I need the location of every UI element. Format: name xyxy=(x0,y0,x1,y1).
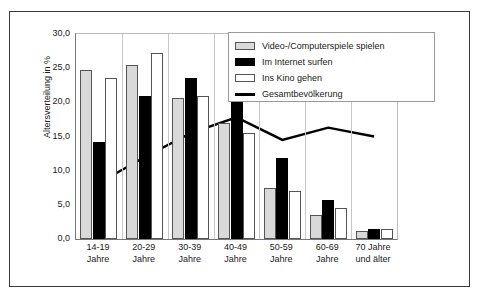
bar xyxy=(80,70,92,239)
y-axis-tick-label: 5,0 xyxy=(57,199,70,209)
bar xyxy=(139,96,151,239)
bar xyxy=(335,208,347,239)
bar xyxy=(231,85,243,239)
bar-group xyxy=(172,34,209,239)
bar xyxy=(126,65,138,239)
bar xyxy=(185,78,197,239)
bar xyxy=(197,96,209,240)
legend-label-video-games: Video-/Computerspiele spielen xyxy=(262,41,384,51)
bar xyxy=(151,53,163,239)
category-separator xyxy=(168,34,169,239)
y-axis-tick-label: 10,0 xyxy=(52,165,70,175)
y-axis-title: Altersverteilung in % xyxy=(42,12,52,182)
bar xyxy=(105,78,117,239)
y-axis-tick-label: 30,0 xyxy=(52,28,70,38)
legend-item: Gesamtbevölkerung xyxy=(235,86,434,102)
legend-swatch-video-games xyxy=(235,42,255,50)
bar xyxy=(322,200,334,239)
legend-swatch-internet xyxy=(235,58,255,66)
bar xyxy=(264,188,276,239)
bar xyxy=(310,215,322,239)
bar xyxy=(243,133,255,239)
legend-item: Ins Kino gehen xyxy=(235,70,434,86)
bar xyxy=(289,191,301,239)
bar xyxy=(356,231,368,239)
category-separator xyxy=(214,34,215,239)
bar xyxy=(368,229,380,239)
legend-label-internet: Im Internet surfen xyxy=(262,57,333,67)
bar xyxy=(172,98,184,239)
category-separator xyxy=(122,34,123,239)
legend-item: Im Internet surfen xyxy=(235,54,434,70)
bar xyxy=(276,158,288,239)
y-axis-tick-label: 25,0 xyxy=(52,62,70,72)
chart-legend: Video-/Computerspiele spielen Im Interne… xyxy=(228,32,435,102)
y-axis-tick-label: 20,0 xyxy=(52,96,70,106)
legend-swatch-cinema xyxy=(235,74,255,82)
bar-group xyxy=(80,34,117,239)
y-axis-tick-label: 15,0 xyxy=(52,131,70,141)
bar-group xyxy=(126,34,163,239)
chart-container: Altersverteilung in % 0,05,010,015,020,0… xyxy=(0,0,483,300)
bar xyxy=(218,123,230,239)
x-axis-tick-label: 70 Jahreund älter xyxy=(333,242,413,265)
bar xyxy=(381,229,393,239)
legend-swatch-population xyxy=(235,90,255,98)
legend-label-cinema: Ins Kino gehen xyxy=(262,73,322,83)
bar xyxy=(93,142,105,239)
legend-item: Video-/Computerspiele spielen xyxy=(235,38,434,54)
legend-label-population: Gesamtbevölkerung xyxy=(262,89,343,99)
